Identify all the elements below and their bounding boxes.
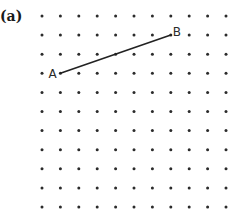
grid-dot (133, 110, 136, 113)
grid-dot (188, 148, 191, 151)
grid-dot (96, 34, 99, 37)
grid-dot (169, 72, 172, 75)
grid-dot (133, 91, 136, 94)
grid-dot (114, 206, 117, 209)
grid-dot (96, 186, 99, 189)
grid-dot (77, 129, 80, 132)
grid-dot (114, 91, 117, 94)
grid-dot (151, 91, 154, 94)
grid-dot (225, 167, 228, 170)
grid-dot (59, 91, 62, 94)
grid-dot (151, 15, 154, 18)
grid-dot (77, 110, 80, 113)
grid-dot (133, 129, 136, 132)
grid-dot (169, 129, 172, 132)
grid-dot (206, 129, 209, 132)
grid-dot (133, 53, 136, 56)
grid-dot (77, 148, 80, 151)
grid-dot (59, 167, 62, 170)
grid-dot (59, 53, 62, 56)
grid-dot (114, 15, 117, 18)
grid-dot (77, 15, 80, 18)
grid-dot (225, 129, 228, 132)
grid-dot (169, 186, 172, 189)
grid-dot (206, 167, 209, 170)
grid-dot (169, 53, 172, 56)
grid-dot (188, 91, 191, 94)
grid-dot (206, 53, 209, 56)
grid-dot (188, 53, 191, 56)
grid-dot (59, 129, 62, 132)
grid-dot (188, 129, 191, 132)
grid-dot (206, 186, 209, 189)
grid-dot (151, 110, 154, 113)
grid-dot (59, 148, 62, 151)
grid-dot (151, 34, 154, 37)
grid-dot (169, 148, 172, 151)
grid-dot (41, 34, 44, 37)
grid-dot (41, 186, 44, 189)
grid-dot (96, 110, 99, 113)
grid-dot (77, 91, 80, 94)
grid-dot (169, 91, 172, 94)
grid-dot (206, 15, 209, 18)
grid-dot (96, 129, 99, 132)
grid-dot (188, 72, 191, 75)
grid-dot (59, 110, 62, 113)
grid-dot (206, 91, 209, 94)
grid-dot (77, 53, 80, 56)
grid-dot (225, 148, 228, 151)
grid-dot (225, 53, 228, 56)
grid-dot (206, 206, 209, 209)
grid-dot (77, 186, 80, 189)
grid-dot (114, 110, 117, 113)
grid-dot (41, 167, 44, 170)
grid-dot (96, 72, 99, 75)
grid-dot (114, 34, 117, 37)
grid-dot (133, 148, 136, 151)
dot-grid-diagram: A B (0, 0, 236, 217)
grid-dot (41, 15, 44, 18)
grid-dot (114, 167, 117, 170)
grid-dot (41, 110, 44, 113)
grid-dot (188, 15, 191, 18)
grid-dot (225, 15, 228, 18)
grid-dot (59, 206, 62, 209)
grid-dot (225, 34, 228, 37)
grid-dot (41, 129, 44, 132)
grid-dots (41, 15, 228, 209)
grid-dot (114, 129, 117, 132)
grid-dot (151, 167, 154, 170)
grid-dot (169, 15, 172, 18)
grid-dot (225, 72, 228, 75)
grid-dot (114, 148, 117, 151)
segment-ab (60, 35, 170, 73)
grid-dot (96, 167, 99, 170)
grid-dot (151, 72, 154, 75)
grid-dot (151, 148, 154, 151)
point-label-b: B (173, 25, 181, 39)
grid-dot (114, 72, 117, 75)
grid-dot (77, 72, 80, 75)
grid-dot (133, 206, 136, 209)
grid-dot (133, 186, 136, 189)
grid-dot (133, 34, 136, 37)
grid-dot (151, 129, 154, 132)
point-label-a: A (48, 67, 57, 81)
grid-dot (77, 34, 80, 37)
grid-dot (96, 53, 99, 56)
grid-dot (188, 186, 191, 189)
grid-dot (151, 206, 154, 209)
grid-dot (133, 167, 136, 170)
grid-dot (41, 206, 44, 209)
grid-dot (96, 206, 99, 209)
grid-dot (188, 206, 191, 209)
grid-dot (225, 206, 228, 209)
grid-dot (77, 206, 80, 209)
grid-dot (133, 15, 136, 18)
grid-dot (96, 91, 99, 94)
grid-dot (133, 72, 136, 75)
grid-dot (206, 34, 209, 37)
grid-dot (59, 34, 62, 37)
grid-dot (41, 91, 44, 94)
